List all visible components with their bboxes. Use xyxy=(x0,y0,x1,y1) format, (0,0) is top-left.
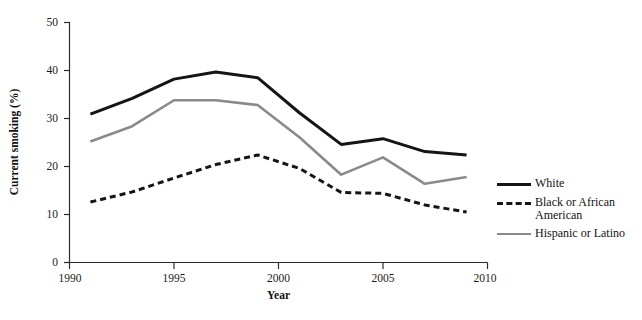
x-tick-label-1995: 1995 xyxy=(163,272,186,284)
y-axis-tick-labels: 0 10 20 30 40 50 xyxy=(47,16,59,268)
chart-figure: Current smoking (%) 0 10 20 30 40 50 xyxy=(0,0,642,320)
x-tick-label-1990: 1990 xyxy=(59,272,82,284)
y-tick-label-10: 10 xyxy=(47,208,59,220)
series-line-black-or-african-american xyxy=(90,155,466,212)
legend-label-hispanic-or-latino: Hispanic or Latino xyxy=(535,227,625,240)
legend-label-white: White xyxy=(535,177,564,190)
x-axis-title: Year xyxy=(267,289,290,301)
series-line-white xyxy=(90,72,466,155)
solid-gray-line-icon xyxy=(497,227,531,241)
chart-legend: White Black or African American Hispanic… xyxy=(497,177,642,246)
solid-black-line-icon xyxy=(497,177,531,191)
x-tick-label-2010: 2010 xyxy=(474,272,497,284)
y-tick-label-20: 20 xyxy=(47,160,59,172)
legend-item-black-or-african-american[interactable]: Black or African American xyxy=(497,196,642,222)
legend-item-white[interactable]: White xyxy=(497,177,642,191)
x-tick-label-2005: 2005 xyxy=(372,272,395,284)
x-axis-tick-labels: 1990 1995 2000 2005 2010 xyxy=(59,272,497,284)
y-axis-title: Current smoking (%) xyxy=(8,89,21,196)
line-chart-plot: Current smoking (%) 0 10 20 30 40 50 xyxy=(0,0,642,320)
y-axis-ticks xyxy=(64,23,70,263)
legend-item-hispanic-or-latino[interactable]: Hispanic or Latino xyxy=(497,227,642,241)
y-tick-label-40: 40 xyxy=(47,64,59,76)
y-tick-label-50: 50 xyxy=(47,16,59,28)
y-tick-label-30: 30 xyxy=(47,112,59,124)
dashed-black-line-icon xyxy=(497,196,531,210)
x-axis-ticks xyxy=(70,263,488,270)
series-group xyxy=(90,72,466,212)
series-line-hispanic-or-latino xyxy=(90,100,466,184)
x-tick-label-2000: 2000 xyxy=(267,272,290,284)
y-tick-label-0: 0 xyxy=(52,256,58,268)
legend-label-black-or-african-american: Black or African American xyxy=(535,196,615,222)
